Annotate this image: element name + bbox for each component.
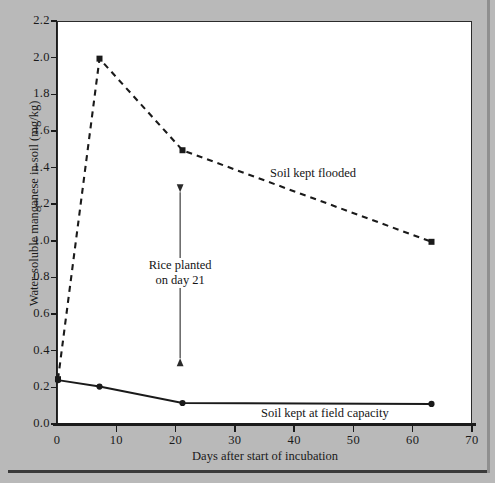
x-axis-tick-label: 70: [452, 433, 492, 448]
annotation-rice-planted: Rice planted on day 21: [121, 258, 239, 288]
x-axis-tick-label: 30: [215, 433, 255, 448]
y-axis-tick-label: 1.8: [12, 86, 50, 101]
y-axis-tick-label: 0.2: [12, 379, 50, 394]
x-axis-tick-label: 50: [333, 433, 373, 448]
data-point-marker: [179, 400, 185, 406]
y-axis-tick-label: 2.0: [12, 50, 50, 65]
y-axis-tick-label: 0.0: [12, 416, 50, 431]
series-line-2: [58, 380, 432, 404]
x-axis-tick-label: 10: [96, 433, 136, 448]
y-axis-tick-label: 1.0: [12, 233, 50, 248]
y-axis-tick-label: 0.4: [12, 343, 50, 358]
y-axis-tick-label: 1.4: [12, 160, 50, 175]
y-axis-tick-label: 2.2: [12, 13, 50, 28]
figure-canvas: Water-soluble manganese in soil (mg/kg) …: [0, 0, 495, 483]
data-point-marker: [55, 377, 61, 383]
series-label-soil-kept-at-field-capacity: Soil kept at field capacity: [261, 406, 389, 421]
plot-area: Rice planted on day 21 Soil kept flooded…: [57, 21, 472, 424]
data-point-marker: [180, 147, 186, 153]
x-axis-tick: [293, 426, 294, 432]
data-point-marker: [429, 239, 435, 245]
y-axis-tick-label: 1.2: [12, 196, 50, 211]
x-axis-tick: [116, 426, 117, 432]
series-label-soil-kept-flooded: Soil kept flooded: [270, 166, 356, 181]
x-axis-tick-label: 60: [393, 433, 433, 448]
x-axis-title: Days after start of incubation: [115, 449, 415, 464]
series-line-1: [58, 59, 432, 380]
y-axis-tick-label: 1.6: [12, 123, 50, 138]
data-point-marker: [97, 56, 103, 62]
figure-right-rule: [487, 0, 490, 473]
x-axis-tick-label: 40: [274, 433, 314, 448]
x-axis-tick-label: 20: [156, 433, 196, 448]
x-axis-tick: [471, 426, 472, 432]
annotation-line-1: Rice planted: [149, 258, 212, 272]
x-axis-tick: [175, 426, 176, 432]
x-axis-tick: [234, 426, 235, 432]
y-axis-tick-label: 0.8: [12, 269, 50, 284]
x-axis-tick: [412, 426, 413, 432]
x-axis-tick-label: 0: [37, 433, 77, 448]
y-axis-tick-label: 0.6: [12, 306, 50, 321]
figure-bottom-rule: [8, 470, 487, 473]
plot-svg: [58, 22, 473, 425]
data-point-marker: [96, 383, 102, 389]
annotation-line-2: on day 21: [155, 273, 204, 287]
x-axis-tick: [353, 426, 354, 432]
data-point-marker: [428, 401, 434, 407]
